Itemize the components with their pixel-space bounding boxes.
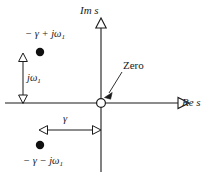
pole-lower-label: − γ − jω1 [23, 156, 63, 168]
real-offset-arrowhead-right-icon [93, 126, 102, 135]
imaginary-axis-label: Im s [80, 5, 99, 16]
pole-lower-label-text: − γ − jω [23, 155, 60, 166]
real-offset-label: γ [63, 114, 67, 126]
zero-callout-arrowhead-icon [105, 93, 113, 100]
pole-marker-upper-icon [36, 48, 44, 56]
real-axis-label: Re s [182, 97, 201, 108]
real-offset-label-text: γ [63, 113, 67, 124]
pole-upper-label-subscript: 1 [62, 33, 66, 41]
imaginary-offset-label-subscript: 1 [37, 77, 41, 85]
zero-callout-label: Zero [123, 60, 144, 71]
pole-lower-label-subscript: 1 [60, 160, 64, 168]
pole-upper-label-text: − γ + jω [25, 28, 62, 39]
imaginary-offset-label: jω1 [27, 73, 41, 85]
pole-zero-diagram-figure: Im s Re s Zero − γ + jω1 − γ − jω1 jω1 γ [0, 0, 209, 182]
zero-marker-icon [97, 99, 106, 108]
imaginary-offset-arrowhead-down-icon [19, 95, 28, 104]
zero-callout-leader-line [109, 72, 122, 93]
imaginary-axis-arrowhead-icon [96, 18, 106, 28]
real-offset-arrowhead-left-icon [39, 126, 48, 135]
imaginary-offset-arrowhead-up-icon [19, 53, 28, 62]
pole-marker-lower-icon [36, 141, 44, 149]
imaginary-offset-label-text: jω [27, 72, 37, 83]
pole-upper-label: − γ + jω1 [25, 29, 65, 41]
